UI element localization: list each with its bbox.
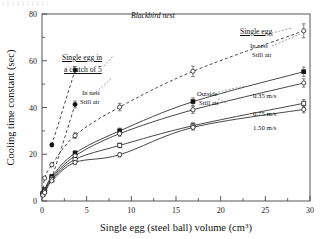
x-tick-label: 0	[40, 206, 44, 215]
annotation-clutch-heading-l2: a clutch of 5	[64, 65, 102, 74]
x-tick-label: 5	[85, 206, 89, 215]
annotation-clutch-heading-l1: Single egg in	[62, 53, 102, 62]
x-axis-title: Single egg (steel ball) volume (cm3)	[100, 222, 252, 234]
annotation-speed-150: 1.50 m/s	[253, 124, 276, 131]
annotation-outside-sub-l2: Still air	[199, 99, 219, 106]
y-tick-label: 20	[29, 150, 37, 159]
annotation-clutch-sub-l1: In nest	[82, 89, 100, 96]
x-tick-label: 25	[261, 206, 269, 215]
annotation-speed-075: 0.75 m/s	[253, 110, 276, 117]
x-tick-label: 30	[306, 206, 314, 215]
annotation-speed-035: 0.35 m/s	[253, 92, 276, 99]
x-tick-label: 15	[172, 206, 180, 215]
y-tick-label: 60	[29, 57, 37, 66]
y-tick-label: 40	[29, 104, 37, 113]
cooling-time-constant-chart: 020406080051015202530Single egg (steel b…	[0, 0, 325, 239]
annotation-clutch-sub-l2: Still air	[80, 98, 100, 105]
annotation-single-sub-l1: In nest	[250, 42, 268, 49]
x-tick-label: 20	[217, 206, 225, 215]
annotation-single-sub-l2: Still air	[252, 51, 272, 58]
y-tick-label: 80	[29, 10, 37, 19]
figure-panel: 020406080051015202530Single egg (steel b…	[0, 0, 325, 239]
series-0	[41, 101, 77, 195]
scan-artifact	[2, 1, 48, 6]
annotation-outside-sub-l1: Outside	[197, 90, 218, 97]
y-tick-label: 0	[33, 197, 37, 206]
panel-title: Blackbird nest	[131, 11, 175, 20]
annotation-single-heading: Single egg	[240, 27, 272, 36]
series-6	[41, 106, 306, 197]
y-axis-title: Cooling time constant (sec)	[5, 49, 17, 165]
x-tick-label: 10	[127, 206, 135, 215]
